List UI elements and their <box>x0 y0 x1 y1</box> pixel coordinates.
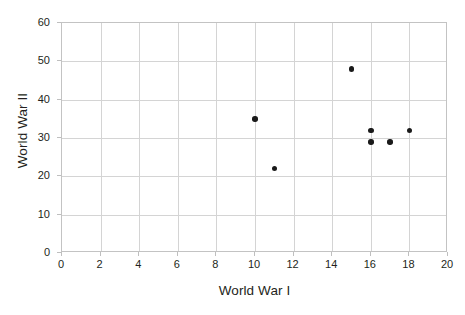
y-axis-tick <box>57 22 61 23</box>
x-tick-label: 2 <box>80 258 120 270</box>
x-tick-label: 8 <box>195 258 235 270</box>
x-axis-tick <box>215 252 216 256</box>
gridline-vertical <box>332 23 333 251</box>
data-point <box>272 166 278 172</box>
gridline-horizontal <box>62 215 446 216</box>
data-point <box>349 66 355 72</box>
x-axis-tick <box>61 252 62 256</box>
x-axis-tick <box>177 252 178 256</box>
x-axis-tick <box>370 252 371 256</box>
y-axis-tick <box>57 175 61 176</box>
x-tick-label: 14 <box>311 258 351 270</box>
y-tick-label: 0 <box>10 246 50 258</box>
gridline-vertical <box>255 23 256 251</box>
y-axis-tick <box>57 137 61 138</box>
x-axis-tick <box>293 252 294 256</box>
x-tick-label: 12 <box>273 258 313 270</box>
x-axis-tick <box>408 252 409 256</box>
x-axis-title: World War I <box>61 283 448 298</box>
y-axis-tick <box>57 252 61 253</box>
x-axis-tick <box>331 252 332 256</box>
gridline-vertical <box>294 23 295 251</box>
gridline-horizontal <box>62 176 446 177</box>
y-tick-label: 20 <box>10 169 50 181</box>
x-tick-label: 20 <box>427 258 465 270</box>
x-tick-label: 18 <box>388 258 428 270</box>
y-tick-label: 40 <box>10 93 50 105</box>
y-tick-label: 10 <box>10 208 50 220</box>
gridline-vertical <box>409 23 410 251</box>
gridline-horizontal <box>62 100 446 101</box>
gridline-vertical <box>216 23 217 251</box>
gridline-vertical <box>178 23 179 251</box>
x-tick-label: 16 <box>350 258 390 270</box>
data-point <box>407 128 413 134</box>
y-tick-label: 60 <box>10 16 50 28</box>
x-axis-tick <box>254 252 255 256</box>
y-axis-tick <box>57 60 61 61</box>
y-tick-label: 50 <box>10 54 50 66</box>
x-tick-label: 10 <box>234 258 274 270</box>
y-tick-label: 30 <box>10 131 50 143</box>
x-axis-tick <box>447 252 448 256</box>
data-point <box>368 128 374 134</box>
y-axis-tick <box>57 214 61 215</box>
x-tick-label: 0 <box>41 258 81 270</box>
scatter-chart: World War II 02468101214161820 010203040… <box>0 0 465 315</box>
data-point <box>252 116 258 122</box>
gridline-horizontal <box>62 61 446 62</box>
gridline-vertical <box>101 23 102 251</box>
data-point <box>368 139 374 145</box>
x-tick-label: 4 <box>118 258 158 270</box>
plot-area <box>61 22 447 252</box>
gridline-vertical <box>371 23 372 251</box>
y-axis-tick <box>57 99 61 100</box>
x-axis-tick <box>100 252 101 256</box>
gridline-vertical <box>139 23 140 251</box>
x-axis-tick <box>138 252 139 256</box>
data-point <box>387 139 393 145</box>
x-tick-label: 6 <box>157 258 197 270</box>
